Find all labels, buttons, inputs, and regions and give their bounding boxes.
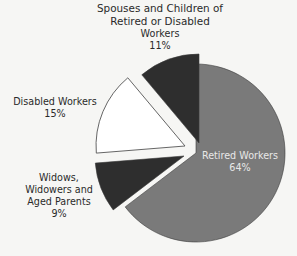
label-disabled: Disabled Workers 15% — [10, 96, 100, 120]
label-widows-pct: 9% — [18, 208, 100, 220]
label-widows: Widows, Widowers and Aged Parents 9% — [18, 172, 100, 220]
label-disabled-line1: Disabled Workers — [10, 96, 100, 108]
label-spouses-line1: Spouses and Children of — [95, 2, 225, 15]
label-spouses-line2: Retired or Disabled — [95, 15, 225, 28]
label-disabled-pct: 15% — [10, 108, 100, 120]
label-retired: Retired Workers 64% — [195, 150, 285, 174]
label-widows-line3: Aged Parents — [18, 196, 100, 208]
label-retired-line1: Retired Workers — [195, 150, 285, 162]
label-widows-line1: Widows, — [18, 172, 100, 184]
label-widows-line2: Widowers and — [18, 184, 100, 196]
label-spouses-pct: 11% — [95, 40, 225, 52]
label-spouses: Spouses and Children of Retired or Disab… — [95, 2, 225, 52]
label-spouses-line3: Workers — [95, 28, 225, 40]
label-retired-pct: 64% — [195, 162, 285, 174]
